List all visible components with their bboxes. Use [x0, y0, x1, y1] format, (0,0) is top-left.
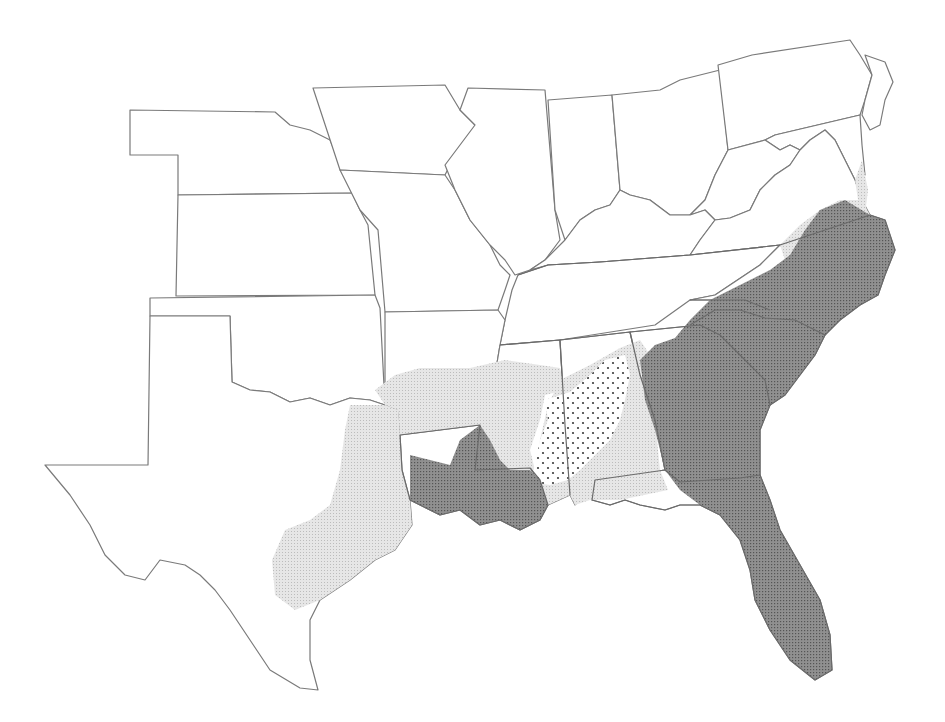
state-kansas: [176, 193, 375, 296]
map: [0, 0, 945, 722]
state-nebraska: [130, 110, 352, 195]
